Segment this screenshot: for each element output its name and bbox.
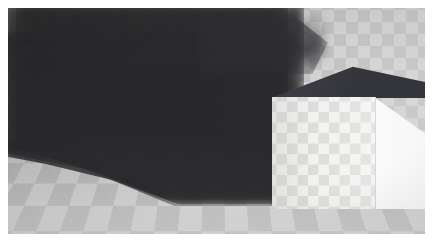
image-frame: [0, 0, 433, 247]
box-vertical-edge: [375, 97, 376, 209]
box-front-face: [272, 97, 376, 209]
box: [257, 64, 425, 209]
box-front-shading: [272, 97, 376, 209]
box-top-sheen: [257, 64, 425, 98]
box-right-face: [375, 81, 425, 209]
box-right-shading: [375, 81, 425, 209]
render-viewport: [8, 8, 425, 234]
